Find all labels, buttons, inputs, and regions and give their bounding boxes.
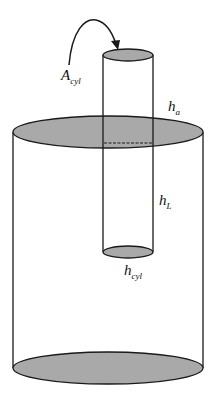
label-area-cyl: Acyl [61,68,81,86]
label-h-l: hL [159,193,172,211]
label-h-a-main: h [168,98,176,114]
diagram-canvas [0,0,214,406]
narrow-cylinder-top [103,49,153,61]
label-area-sub: cyl [70,76,81,86]
label-h-cyl: hcyl [124,263,142,281]
arrowhead-icon [111,40,120,50]
label-h-cyl-sub: cyl [132,271,143,281]
label-area-main: A [61,67,70,83]
label-h-a-sub: a [176,107,181,117]
label-h-l-sub: L [167,201,172,211]
label-h-cyl-main: h [124,262,132,278]
liquid-surface [13,116,203,148]
label-h-l-main: h [159,192,167,208]
narrow-cylinder-bottom [103,246,153,258]
large-cylinder-bottom [13,352,203,384]
label-h-a: ha [168,99,180,117]
